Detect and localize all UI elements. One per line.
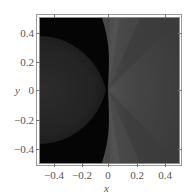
x-tick-label: −0.4 (39, 169, 69, 181)
x-tick-top (108, 14, 109, 18)
x-tick-label: 0.4 (150, 169, 180, 181)
y-tick-label: −0.2 (4, 114, 34, 126)
x-tick-top (165, 14, 166, 18)
y-axis-title: y (15, 84, 20, 96)
y-tick-right (178, 149, 182, 150)
y-tick-label: 0.2 (4, 56, 34, 68)
y-tick (36, 149, 40, 150)
y-tick (36, 90, 40, 91)
y-tick (36, 120, 40, 121)
x-tick-label: 0 (93, 169, 123, 181)
x-axis-title: x (104, 182, 109, 194)
x-tick-top (54, 14, 55, 18)
x-tick (82, 163, 83, 167)
heatmap-plot-area (40, 18, 179, 163)
x-tick (54, 163, 55, 167)
x-tick (165, 163, 166, 167)
y-tick-right (178, 33, 182, 34)
y-tick (36, 33, 40, 34)
y-tick (36, 62, 40, 63)
y-tick-label: 0.4 (4, 27, 34, 39)
x-tick-label: 0.2 (122, 169, 152, 181)
x-tick (108, 163, 109, 167)
x-tick (137, 163, 138, 167)
heatmap-image (40, 18, 179, 163)
y-tick-label: −0.4 (4, 143, 34, 155)
y-tick-right (178, 90, 182, 91)
